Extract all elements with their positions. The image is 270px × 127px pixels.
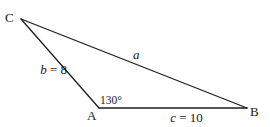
triangle-diagram: C A B a b = 8 c = 10 130° <box>0 0 270 127</box>
side-b-label: b = 8 <box>24 62 77 77</box>
vertex-a-label: A <box>87 108 97 123</box>
side-c-label: c = 10 <box>154 110 213 125</box>
side-c-value: = 10 <box>176 110 203 125</box>
side-a-var: a <box>133 47 140 62</box>
side-a-label: a <box>133 47 140 62</box>
vertex-c-label: C <box>5 10 14 25</box>
vertex-b-label: B <box>250 104 259 119</box>
angle-a-label: 130° <box>100 94 122 106</box>
side-b-value: = 8 <box>47 62 67 77</box>
